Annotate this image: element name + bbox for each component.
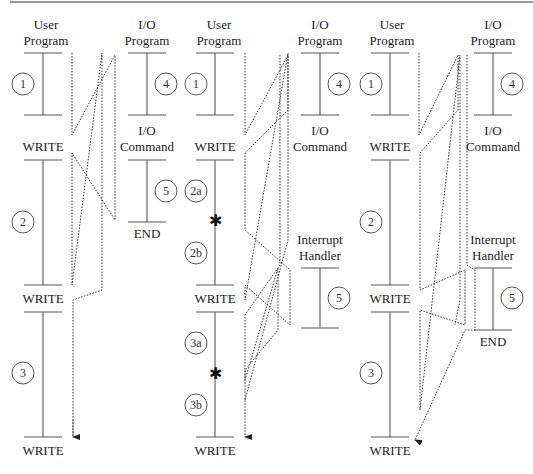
io-command-label: Command bbox=[120, 139, 175, 154]
segment-label: 1 bbox=[193, 77, 199, 91]
user-program-title: User bbox=[380, 17, 405, 32]
segment-label: 3 bbox=[368, 366, 374, 380]
execution-flow-line bbox=[419, 53, 465, 410]
interrupt-marker-icon: ✱ bbox=[209, 211, 222, 230]
execution-flow-line bbox=[245, 53, 290, 400]
segment-label: 5 bbox=[336, 291, 342, 305]
io-command-label: I/O bbox=[311, 123, 328, 138]
io-command-label: I/O bbox=[138, 123, 155, 138]
user-program-title: User bbox=[207, 17, 232, 32]
end-label: END bbox=[480, 334, 507, 349]
segment-label: 4 bbox=[509, 77, 515, 91]
io-command-label: I/O bbox=[484, 123, 501, 138]
segment-label: 1 bbox=[368, 77, 374, 91]
write-label: WRITE bbox=[369, 291, 410, 306]
segment-label: 3b bbox=[190, 398, 202, 412]
panel-long-io-wait: User Program I/O Program 1 WRITE 2 WRITE… bbox=[360, 17, 523, 458]
execution-flow-line bbox=[72, 53, 115, 437]
segment-label: 2 bbox=[368, 215, 374, 229]
user-program-title: Program bbox=[24, 33, 69, 48]
panel-no-interrupts: User Program I/O Program 1 WRITE 2 WRITE… bbox=[12, 17, 177, 458]
write-label: WRITE bbox=[369, 139, 410, 154]
segment-label: 4 bbox=[336, 77, 342, 91]
interrupt-handler-title: Handler bbox=[299, 248, 342, 263]
user-program-title: Program bbox=[197, 33, 242, 48]
interrupt-handler-title: Interrupt bbox=[297, 232, 343, 247]
io-program-title: I/O bbox=[484, 17, 501, 32]
segment-label: 2b bbox=[190, 246, 202, 260]
program-flow-diagram: User Program I/O Program 1 WRITE 2 WRITE… bbox=[0, 0, 533, 474]
write-label: WRITE bbox=[194, 139, 235, 154]
write-label: WRITE bbox=[194, 291, 235, 306]
user-program-title: Program bbox=[370, 33, 415, 48]
interrupt-marker-icon: ✱ bbox=[209, 364, 222, 383]
segment-label: 2a bbox=[190, 184, 202, 198]
io-command-label: Command bbox=[466, 139, 521, 154]
io-program-title: Program bbox=[125, 33, 170, 48]
segment-label: 4 bbox=[163, 77, 169, 91]
write-label: WRITE bbox=[22, 291, 63, 306]
write-label: WRITE bbox=[22, 443, 63, 458]
segment-label: 2 bbox=[20, 215, 26, 229]
segment-label: 5 bbox=[509, 291, 515, 305]
io-program-title: Program bbox=[471, 33, 516, 48]
write-label: WRITE bbox=[194, 443, 235, 458]
io-program-title: I/O bbox=[311, 17, 328, 32]
io-program-title: Program bbox=[298, 33, 343, 48]
write-label: WRITE bbox=[22, 139, 63, 154]
segment-label: 1 bbox=[20, 77, 26, 91]
io-program-title: I/O bbox=[138, 17, 155, 32]
write-label: WRITE bbox=[369, 443, 410, 458]
user-program-title: User bbox=[34, 17, 59, 32]
segment-label: 5 bbox=[163, 184, 169, 198]
segment-label: 3a bbox=[190, 336, 202, 350]
interrupt-handler-title: Handler bbox=[472, 248, 515, 263]
interrupt-handler-title: Interrupt bbox=[470, 232, 516, 247]
panel-short-io-wait: User Program I/O Program 1 WRITE 2a ✱ 2b… bbox=[185, 17, 350, 458]
segment-label: 3 bbox=[20, 366, 26, 380]
io-command-label: Command bbox=[293, 139, 348, 154]
end-label: END bbox=[134, 226, 161, 241]
